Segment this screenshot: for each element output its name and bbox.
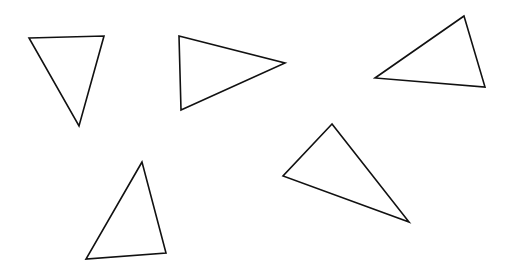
triangle-4 [283,124,409,222]
triangle-2 [179,36,285,110]
triangle-5 [86,162,166,259]
triangle-1 [29,36,104,126]
triangles-canvas [0,0,510,275]
triangle-3 [375,16,485,87]
